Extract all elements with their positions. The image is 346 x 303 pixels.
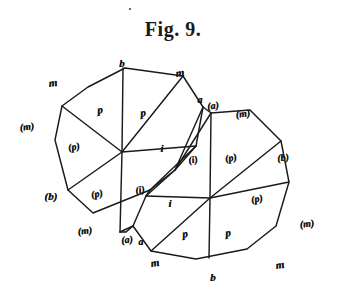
junction-label-a-paren-upper: (a) [207,100,220,112]
lower-crystal-edge-diag-a [146,182,289,198]
face-label-i-lower: i [168,198,171,209]
face-label-i-paren-left: (i) [134,184,145,196]
figure-root: Fig. 9. b m m (m) (b) (m) [0,0,346,303]
junction-label-a-paren-lower: (a) [121,234,134,246]
face-label-m-top-right: m [175,67,185,79]
face-label-m-paren-right: (m) [299,218,315,230]
crystal-twin-diagram [0,0,346,303]
face-label-m-top-left: m [48,77,58,89]
face-label-p-upper-left: p [97,104,104,116]
face-label-i-paren-upperright: (i) [187,154,198,166]
face-label-p-upper-right: p [140,107,147,119]
lower-crystal-edge-vertical [209,113,211,258]
upper-crystal-edge-diag-a [62,106,196,152]
face-label-m-paren-upperright: (m) [235,108,251,120]
face-label-m-bottom-left: m [150,257,160,269]
face-label-m-bottom-right: m [275,259,285,271]
junction-label-a-upper: a [198,95,203,105]
face-label-b-paren-right: (b) [277,152,290,164]
face-label-p-bottom-right: p [225,227,232,239]
face-label-b-top: b [119,58,125,69]
face-label-p-bottom-left: p [182,228,189,240]
junction-label-a-lower: a [139,237,144,247]
face-label-m-paren-lowerleft: (m) [77,225,93,237]
upper-crystal-edge-diag-b [68,76,183,190]
face-label-i-upper: i [160,143,163,154]
face-label-b-paren-left: (b) [45,191,58,202]
face-label-m-paren-left: (m) [19,121,35,133]
face-label-b-bottom: b [210,272,216,283]
